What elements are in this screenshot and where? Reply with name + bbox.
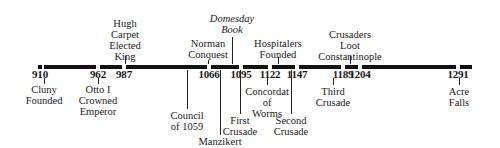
event-otto-crowned: Otto ICrownedEmperor [79,84,118,117]
event-domesday-book: DomesdayBook [210,13,254,35]
event-second-crusade: SecondCrusade [274,115,308,137]
event-label-line: Hugh [109,18,140,29]
event-label-line: Crusade [316,97,350,108]
event-label-line: Hospitalers [254,38,302,49]
year-label: 1095 [230,68,251,80]
year-label: 1291 [447,68,468,80]
timeline-bar-segment [126,65,207,69]
event-label-line: Crusaders [318,29,382,40]
event-label-line: Founded [26,95,63,106]
year-label: 1204 [349,68,370,80]
event-norman-conquest: NormanConquest [188,38,228,60]
event-label-line: Book [210,24,254,35]
event-label-line: Crowned [79,95,118,106]
year-label: 1066 [198,68,219,80]
timeline-bar-segment [44,65,96,69]
event-label-line: Emperor [79,106,118,117]
event-tick [350,56,351,64]
event-acre-falls: AcreFalls [449,86,469,108]
event-tick [232,37,233,64]
event-label-line: Loot [318,40,382,51]
event-tick [220,70,221,135]
event-third-crusade: ThirdCrusade [316,86,350,108]
event-tick [98,78,99,84]
event-tick [291,70,292,114]
event-tick [44,78,45,84]
event-manzikert: Manzikert [198,136,241,147]
event-label-line: Otto I [79,84,118,95]
event-cluny-founded: ClunyFounded [26,84,63,106]
event-tick [459,78,460,85]
event-label-line: Crusade [274,126,308,137]
event-tick [240,70,241,114]
timeline-bar-segment [362,65,456,69]
event-label-line: Council [170,110,203,121]
event-council-1059: Councilof 1059 [170,110,203,132]
event-label-line: Cluny [26,84,63,95]
event-label-line: Conquest [188,49,228,60]
year-label: 1147 [287,68,308,80]
event-tick [278,57,279,64]
event-label-line: Norman [188,38,228,49]
event-label-line: Crusade [223,126,257,137]
event-tick [267,78,268,85]
event-label-line: Third [316,86,350,97]
event-label-line: Acre [449,86,469,97]
year-label: 1122 [260,68,281,80]
event-label-line: Second [274,115,308,126]
event-tick [187,70,188,109]
event-label-line: Concordat [245,86,289,97]
event-label-line: First [223,115,257,126]
event-label-line: Manzikert [198,136,241,147]
timeline-diagram: 9109629871066109511221147118912041291Hug… [0,0,500,148]
event-label-line: of 1059 [170,121,203,132]
event-tick [208,60,209,64]
year-label: 987 [116,68,132,80]
event-label-line: Domesday [210,13,254,24]
event-label-line: Elected [109,40,140,51]
event-label-line: Falls [449,97,469,108]
event-first-crusade: FirstCrusade [223,115,257,137]
event-label-line: Carpet [109,29,140,40]
event-label-line: of [245,97,289,108]
year-label: 910 [32,68,48,80]
event-tick [125,56,126,64]
event-tick [333,78,334,85]
